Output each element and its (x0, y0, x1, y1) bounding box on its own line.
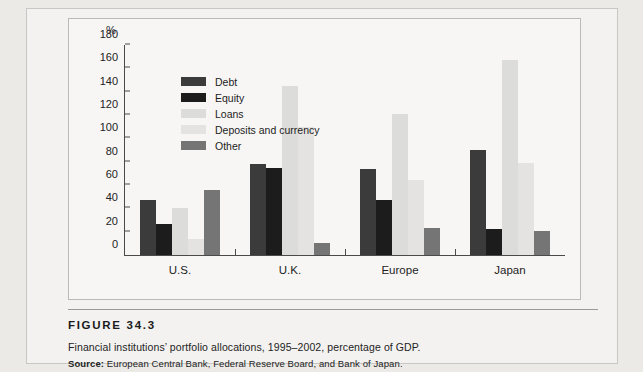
y-axis-tick-label: 60 (106, 169, 125, 180)
figure-description: Financial institutions’ portfolio alloca… (68, 341, 598, 353)
y-axis-tick-label: 20 (106, 215, 125, 226)
bar-debt-europe (360, 169, 376, 255)
legend-swatch (181, 77, 206, 86)
y-axis-tick-label: 0 (112, 239, 125, 250)
bar-other-u-k- (314, 243, 330, 255)
legend-swatch (181, 141, 206, 150)
x-axis-tick-label: Japan (494, 264, 525, 276)
bar-equity-europe (376, 200, 392, 255)
bar-loans-u-s- (172, 208, 188, 255)
figure-card: % 020406080100120140160180 U.S.U.K.Europ… (26, 8, 618, 364)
bar-other-europe (424, 228, 440, 255)
chart-panel: % 020406080100120140160180 U.S.U.K.Europ… (68, 18, 581, 300)
bar-loans-europe (392, 114, 408, 255)
bar-group-bars (360, 45, 440, 255)
bar-other-japan (534, 231, 550, 256)
y-axis-tick-label: 40 (106, 192, 125, 203)
x-axis-tick-mark (235, 249, 236, 255)
bar-group: Japan (470, 45, 550, 255)
y-axis-tick-mark (125, 137, 130, 138)
bar-debt-u-k- (250, 164, 266, 255)
legend-label: Equity (215, 92, 244, 104)
x-axis-tick-label: U.K. (279, 264, 301, 276)
bar-loans-japan (502, 60, 518, 255)
figure-source: Source: European Central Bank, Federal R… (68, 358, 598, 369)
legend-label: Loans (215, 108, 244, 120)
x-axis-tick-mark (345, 249, 346, 255)
legend-item-equity: Equity (181, 91, 319, 104)
bar-group-bars (470, 45, 550, 255)
figure-number: FIGURE 34.3 (68, 319, 598, 331)
y-axis-tick-label: 140 (100, 75, 125, 86)
x-axis-tick-label: Europe (381, 264, 418, 276)
y-axis-tick-mark (125, 90, 130, 91)
y-axis-tick-label: 80 (106, 145, 125, 156)
figure-page: % 020406080100120140160180 U.S.U.K.Europ… (0, 0, 643, 372)
y-axis-tick-mark (125, 114, 130, 115)
bar-deposits-and-currency-u-s- (188, 239, 204, 255)
y-axis-tick-mark (125, 230, 130, 231)
source-text: European Central Bank, Federal Reserve B… (104, 358, 403, 369)
y-axis-tick-mark (125, 207, 130, 208)
legend-item-other: Other (181, 139, 319, 152)
x-axis-tick-label: U.S. (169, 264, 191, 276)
legend-swatch (181, 93, 206, 102)
source-prefix: Source: (68, 358, 104, 369)
legend-item-debt: Debt (181, 75, 319, 88)
caption-divider (68, 309, 598, 310)
bar-equity-japan (486, 229, 502, 255)
x-axis-tick-mark (455, 249, 456, 255)
bar-deposits-and-currency-europe (408, 180, 424, 255)
legend-item-deposits-and-currency: Deposits and currency (181, 123, 319, 136)
y-axis-tick-label: 160 (100, 52, 125, 63)
bar-equity-u-k- (266, 168, 282, 256)
legend-item-loans: Loans (181, 107, 319, 120)
y-axis-tick-label: 120 (100, 99, 125, 110)
y-axis-tick-label: 100 (100, 122, 125, 133)
legend-swatch (181, 109, 206, 118)
figure-caption: FIGURE 34.3 Financial institutions’ port… (68, 309, 598, 369)
legend-swatch (181, 125, 206, 134)
chart-legend: DebtEquityLoansDeposits and currencyOthe… (181, 75, 319, 152)
bar-equity-u-s- (156, 224, 172, 256)
legend-label: Other (215, 140, 241, 152)
bar-other-u-s- (204, 190, 220, 255)
bar-debt-japan (470, 150, 486, 255)
legend-label: Deposits and currency (215, 124, 319, 136)
bar-debt-u-s- (140, 200, 156, 255)
y-axis-tick-mark (125, 44, 130, 45)
legend-label: Debt (215, 76, 237, 88)
bar-group: Europe (360, 45, 440, 255)
y-axis-tick-mark (125, 160, 130, 161)
bar-deposits-and-currency-japan (518, 163, 534, 255)
y-axis-tick-label: 180 (100, 29, 125, 40)
y-axis-tick-mark (125, 67, 130, 68)
y-axis-tick-mark (125, 184, 130, 185)
